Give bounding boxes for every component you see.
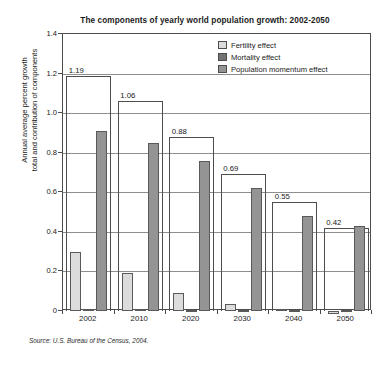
bar-2020-series-2 bbox=[199, 161, 210, 311]
bar-2002-series-1 bbox=[83, 309, 94, 311]
bar-2030-series-1 bbox=[238, 310, 249, 312]
chart-legend: Fertility effect Mortality effect Popula… bbox=[218, 40, 328, 74]
x-tick-label: 2050 bbox=[323, 314, 367, 323]
chart-figure: The components of yearly world populatio… bbox=[0, 0, 380, 367]
total-value-label: 0.69 bbox=[223, 164, 238, 173]
bar-2010-series-1 bbox=[135, 309, 146, 311]
bar-2030-series-2 bbox=[251, 188, 262, 311]
x-tick-mark bbox=[320, 310, 321, 314]
legend-label-momentum: Population momentum effect bbox=[231, 65, 328, 74]
x-tick-mark bbox=[62, 310, 63, 314]
y-tick-label: 0 bbox=[33, 306, 57, 315]
x-tick-label: 2030 bbox=[220, 314, 264, 323]
x-tick-label: 2020 bbox=[169, 314, 213, 323]
y-tick-label: 1.4 bbox=[33, 29, 57, 38]
y-tick-label: 0.2 bbox=[33, 266, 57, 275]
y-tick-label: 1.2 bbox=[33, 68, 57, 77]
x-tick-mark bbox=[371, 310, 372, 314]
x-tick-label: 2010 bbox=[117, 314, 161, 323]
x-tick-label: 2040 bbox=[272, 314, 316, 323]
x-tick-mark bbox=[268, 310, 269, 314]
legend-swatch-mortality-icon bbox=[218, 53, 227, 61]
y-tick-label: 0.6 bbox=[33, 187, 57, 196]
bar-2050-series-1 bbox=[341, 310, 352, 312]
bar-2050-series-0 bbox=[328, 311, 339, 314]
y-tick-label: 0.4 bbox=[33, 226, 57, 235]
bar-2040-series-1 bbox=[289, 310, 300, 312]
bar-2030-series-0 bbox=[225, 304, 236, 311]
y-tick-label: 0.8 bbox=[33, 147, 57, 156]
x-tick-mark bbox=[217, 310, 218, 314]
legend-swatch-fertility-icon bbox=[218, 41, 227, 49]
chart-title: The components of yearly world populatio… bbox=[40, 16, 370, 25]
bar-2050-series-2 bbox=[354, 226, 365, 311]
total-value-label: 1.06 bbox=[120, 91, 135, 100]
x-tick-mark bbox=[114, 310, 115, 314]
total-value-label: 0.88 bbox=[172, 127, 187, 136]
bar-2020-series-0 bbox=[173, 293, 184, 311]
x-tick-mark bbox=[165, 310, 166, 314]
y-tick-label: 1.0 bbox=[33, 108, 57, 117]
legend-item-fertility: Fertility effect bbox=[218, 40, 328, 50]
x-tick-label: 2002 bbox=[66, 314, 110, 323]
legend-label-mortality: Mortality effect bbox=[231, 53, 280, 62]
y-axis-title-line-1: Annual average percent growth bbox=[20, 10, 30, 210]
bar-2020-series-1 bbox=[186, 310, 197, 312]
bar-2040-series-0 bbox=[276, 309, 287, 311]
total-value-label: 1.19 bbox=[69, 66, 84, 75]
total-value-label: 0.42 bbox=[326, 218, 341, 227]
legend-swatch-momentum-icon bbox=[218, 65, 227, 73]
bar-2002-series-2 bbox=[96, 131, 107, 311]
legend-label-fertility: Fertility effect bbox=[231, 41, 276, 50]
legend-item-momentum: Population momentum effect bbox=[218, 64, 328, 74]
plot-area: 1.191.060.880.690.550.42 bbox=[62, 33, 371, 310]
bar-2002-series-0 bbox=[70, 252, 81, 311]
bar-2010-series-2 bbox=[148, 143, 159, 311]
total-value-label: 0.55 bbox=[275, 192, 290, 201]
bar-2040-series-2 bbox=[302, 216, 313, 311]
source-note: Source: U.S. Bureau of the Census, 2004. bbox=[29, 337, 148, 344]
bar-2010-series-0 bbox=[122, 273, 133, 311]
legend-item-mortality: Mortality effect bbox=[218, 52, 328, 62]
